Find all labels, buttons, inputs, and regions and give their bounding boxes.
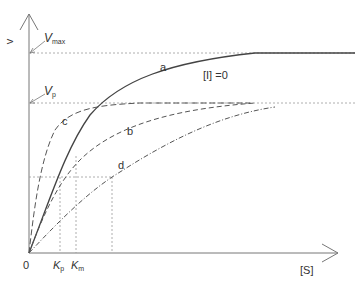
vp-pointer (30, 94, 45, 103)
km-label: Km (71, 260, 84, 272)
curve-a-label: a (160, 62, 166, 73)
vmax-pointer (30, 41, 45, 53)
y-axis-label: v (4, 39, 15, 45)
guide-lines (29, 53, 355, 253)
kp-label: Kp (53, 260, 64, 272)
x-axis-label: [S] (300, 265, 313, 276)
curve-c-label: c (62, 116, 68, 127)
curve-d-label: d (118, 160, 124, 171)
curve-a (29, 53, 355, 253)
vmax-label: Vmax (44, 32, 65, 45)
vp-label: Vp (44, 85, 56, 98)
enzyme-kinetics-diagram: v Vmax Vp 0 Kp Km [S] a b c d [I] =0 (0, 0, 355, 286)
curve-d (29, 107, 275, 253)
curve-b-label: b (127, 126, 133, 137)
origin-label: 0 (23, 260, 29, 271)
inhibitor-annotation: [I] =0 (203, 70, 228, 81)
